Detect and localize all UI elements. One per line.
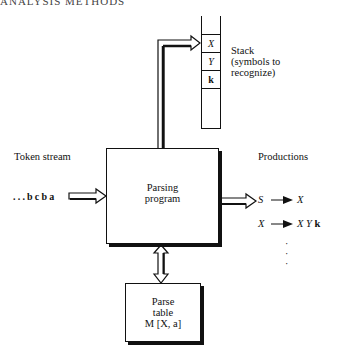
parse-table-box: Parse table M [X, a] [125, 283, 201, 342]
production-rule-2: X X Y k [258, 218, 338, 231]
stack-label: Stack (symbols to recognize) [231, 45, 280, 78]
parsing-program-box: Parsing program [106, 148, 219, 244]
token-stream-label: Token stream [14, 151, 71, 162]
stack-cell-y: Y [202, 52, 220, 70]
stack-cell-x: X [202, 34, 220, 52]
program-to-stack-arrow [158, 36, 200, 148]
stack-cell-k: k [202, 70, 220, 88]
parse-table-line: table [126, 307, 200, 318]
production-rhs: X [297, 194, 303, 205]
production-rhs: X Y k [297, 218, 320, 229]
productions-ellipsis: · · · [285, 239, 288, 269]
token-stream-value: ...bcba [13, 191, 56, 202]
input-arrow [69, 189, 106, 203]
parse-table-line: M [X, a] [126, 318, 200, 329]
stack: X Y k [201, 16, 221, 129]
production-lhs: X [258, 218, 264, 229]
output-arrow [221, 194, 256, 208]
production-lhs: S [258, 194, 263, 205]
stack-cell-empty [202, 88, 220, 89]
production-rule-1: S X [258, 194, 338, 207]
parsing-program-line: Parsing [107, 182, 218, 193]
parsing-program-line: program [107, 193, 218, 204]
stack-label-line: Stack [231, 45, 280, 56]
stack-label-line: recognize) [231, 67, 280, 78]
productions-label: Productions [258, 151, 308, 162]
ellipsis-dot: · [285, 259, 288, 269]
parse-table-line: Parse [126, 296, 200, 307]
program-table-double-arrow [154, 245, 168, 283]
stack-label-line: (symbols to [231, 56, 280, 67]
